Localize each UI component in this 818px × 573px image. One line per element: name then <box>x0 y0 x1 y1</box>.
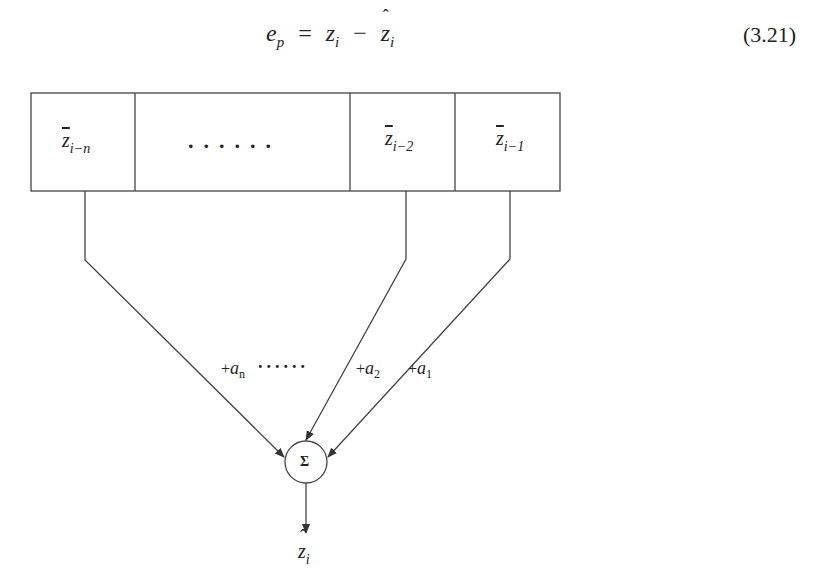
weight-ellipsis: ...... <box>258 352 309 373</box>
cell-ellipsis: ...... <box>188 128 281 154</box>
cell-z-i-2: zi−2 <box>385 127 413 155</box>
register-box <box>31 93 560 191</box>
output-z-hat-i: zi <box>298 540 310 568</box>
cell-z-i-1: zi−1 <box>496 127 524 155</box>
weight-an: +an <box>221 358 245 382</box>
cell-z-i-n: zi−n <box>62 129 90 157</box>
weight-a1: +a1 <box>408 358 432 382</box>
diagram-lines <box>0 0 818 573</box>
weight-a2: +a2 <box>356 358 380 382</box>
sigma-symbol: Σ <box>300 454 309 470</box>
